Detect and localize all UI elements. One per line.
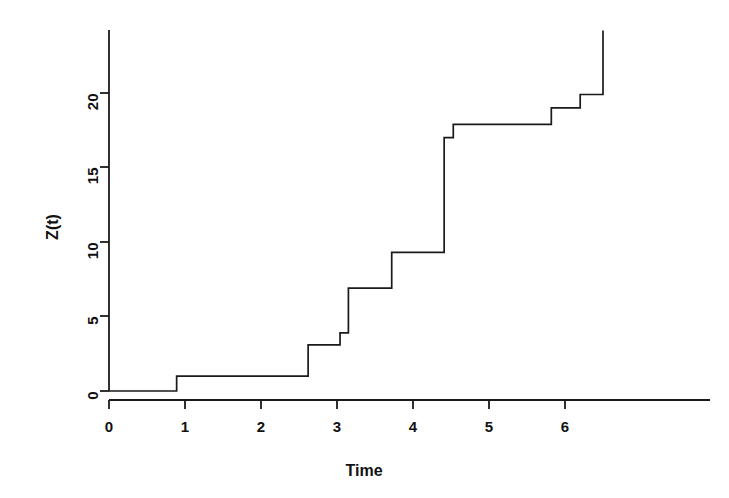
y-axis-title: Z(t) — [44, 214, 62, 240]
x-tick-label-1: 1 — [181, 418, 189, 435]
axes-group — [100, 30, 710, 409]
y-tick-label-5: 5 — [84, 317, 101, 349]
step-function-line — [109, 30, 603, 391]
chart-canvas: 0 1 2 3 4 5 6 0 5 10 15 20 Time Z(t) — [0, 0, 729, 498]
x-tick-label-6: 6 — [561, 418, 569, 435]
x-tick-label-0: 0 — [105, 418, 113, 435]
x-tick-label-3: 3 — [333, 418, 341, 435]
x-tick-label-2: 2 — [257, 418, 265, 435]
y-tick-label-0: 0 — [84, 392, 101, 424]
y-tick-label-15: 15 — [84, 168, 101, 200]
y-tick-label-20: 20 — [84, 94, 101, 126]
x-tick-label-5: 5 — [485, 418, 493, 435]
y-axis-ticks — [100, 93, 109, 391]
x-axis-title: Time — [345, 462, 382, 480]
y-tick-label-10: 10 — [84, 243, 101, 275]
x-tick-label-4: 4 — [409, 418, 417, 435]
x-axis-ticks — [109, 400, 565, 409]
